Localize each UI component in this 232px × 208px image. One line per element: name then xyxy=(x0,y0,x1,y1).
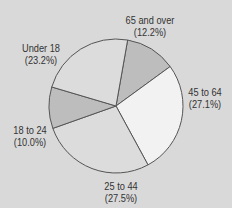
label-65-and-over: 65 and over(12.2%) xyxy=(125,14,174,38)
label-45-to-64: 45 to 64(27.1%) xyxy=(183,86,227,110)
label-18-to-24: 18 to 24(10.0%) xyxy=(12,124,47,148)
label-25-to-44: 25 to 44(27.5%) xyxy=(99,180,143,204)
label-under-18: Under 18(23.2%) xyxy=(21,42,61,66)
